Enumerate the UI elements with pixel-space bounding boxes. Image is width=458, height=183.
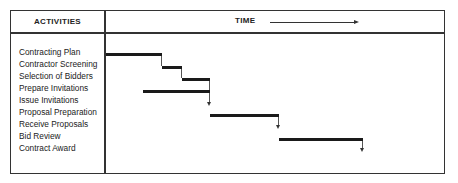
- activity-label: Receive Proposals: [19, 119, 88, 129]
- milestone-issue-invitations-icon: [207, 102, 211, 106]
- activity-label: Issue Invitations: [19, 95, 79, 105]
- bar-prepare-invitations: [143, 90, 210, 93]
- activities-header: ACTIVITIES: [10, 10, 105, 33]
- time-arrow-icon: [270, 22, 355, 23]
- activity-label: Contractor Screening: [19, 59, 97, 69]
- activity-label: Selection of Bidders: [19, 71, 93, 81]
- bar-bid-review: [279, 138, 363, 141]
- bar-proposal-preparation: [210, 114, 279, 117]
- activity-label: Bid Review: [19, 131, 61, 141]
- milestone-receive-proposals-icon: [276, 125, 280, 129]
- column-divider: [104, 10, 106, 174]
- activity-label: Contract Award: [19, 143, 76, 153]
- time-header: TIME: [235, 16, 255, 25]
- dependency-link: [209, 81, 210, 90]
- dependency-link: [161, 56, 162, 66]
- milestone-contract-award-icon: [360, 148, 364, 152]
- bar-contracting-plan: [106, 53, 162, 56]
- activity-label: Contracting Plan: [19, 47, 80, 57]
- bar-selection-of-bidders: [182, 78, 210, 81]
- bar-contractor-screening: [162, 66, 182, 69]
- activity-label: Prepare Invitations: [19, 83, 88, 93]
- dependency-link: [181, 69, 182, 78]
- activity-label: Proposal Preparation: [19, 107, 97, 117]
